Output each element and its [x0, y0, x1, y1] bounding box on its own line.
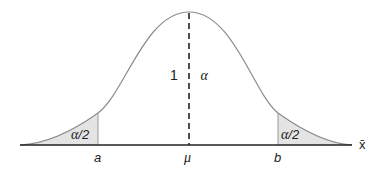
x-bar-axis-label: x̄: [359, 138, 366, 151]
mu-label: μ: [184, 151, 191, 165]
normal-distribution-diagram: 1 α α/2 α/2 a μ b x̄: [0, 0, 383, 172]
right-tail-label: α/2: [281, 128, 299, 142]
center-label-one: 1: [170, 67, 178, 83]
left-tail-half: /2: [78, 127, 89, 142]
left-tail-label: α/2: [71, 128, 89, 142]
center-area-label: 1 α: [170, 68, 208, 83]
bell-curve-graphic: [0, 0, 383, 172]
center-label-alpha: α: [200, 68, 207, 83]
b-label: b: [274, 151, 281, 164]
right-tail-half: /2: [288, 127, 299, 142]
a-label: a: [94, 151, 101, 164]
